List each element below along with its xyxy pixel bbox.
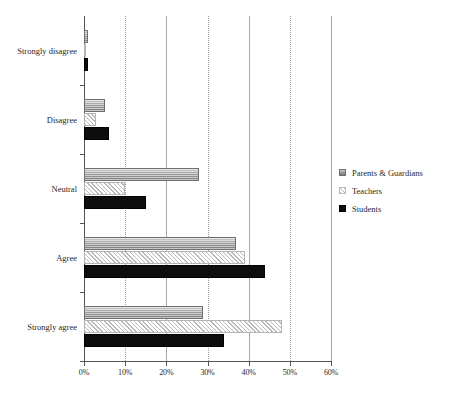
x-tick-mark-0: [84, 361, 85, 366]
x-tick-mark-20: [166, 361, 167, 366]
bar-teachers-strongly-agree: [84, 320, 282, 333]
y-axis-label-neutral: Neutral: [52, 184, 78, 194]
bar-students-agree: [84, 265, 265, 278]
x-tick-label-30: 30%: [200, 368, 214, 377]
bar-students-strongly-agree: [84, 334, 224, 347]
x-tick-label-0: 0%: [79, 368, 89, 377]
bar-students-disagree: [84, 127, 109, 140]
legend-item-students[interactable]: Students: [339, 201, 447, 216]
bar-teachers-disagree: [84, 113, 96, 126]
legend-item-teachers[interactable]: Teachers: [339, 183, 447, 198]
bar-parents-strongly-disagree: [84, 30, 88, 43]
chart-legend: Parents & Guardians Teachers Students: [339, 165, 447, 219]
x-tick-label-20: 20%: [159, 368, 173, 377]
bar-parents-neutral: [84, 168, 199, 181]
x-tick-mark-30: [208, 361, 209, 366]
y-axis-label-strongly-disagree: Strongly disagree: [17, 46, 77, 56]
bar-teachers-strongly-disagree: [84, 44, 86, 57]
legend-item-parents-guardians[interactable]: Parents & Guardians: [339, 165, 447, 180]
x-tick-mark-50: [290, 361, 291, 366]
gridline-60: [331, 16, 332, 361]
bar-parents-agree: [84, 237, 236, 250]
legend-label-parents-guardians: Parents & Guardians: [352, 168, 423, 178]
legend-label-students: Students: [352, 204, 381, 214]
bar-parents-strongly-agree: [84, 306, 203, 319]
bar-teachers-agree: [84, 251, 245, 264]
gridline-30: [208, 16, 210, 361]
y-tick-mark-0: [80, 85, 84, 86]
x-tick-label-40: 40%: [242, 368, 256, 377]
x-tick-mark-40: [249, 361, 250, 366]
legend-swatch-icon-teachers: [339, 187, 346, 194]
x-tick-mark-10: [125, 361, 126, 366]
y-tick-mark-4: [80, 361, 84, 362]
bar-teachers-neutral: [84, 182, 125, 195]
bar-students-strongly-disagree: [84, 58, 88, 71]
x-tick-label-60: 60%: [324, 368, 338, 377]
bar-students-neutral: [84, 196, 146, 209]
gridline-50: [290, 16, 292, 361]
x-tick-label-50: 50%: [283, 368, 297, 377]
legend-label-teachers: Teachers: [352, 186, 382, 196]
y-axis-label-strongly-agree: Strongly agree: [27, 322, 77, 332]
legend-swatch-icon-parents-guardians: [339, 169, 346, 176]
y-tick-mark-3: [80, 292, 84, 293]
y-axis-label-agree: Agree: [56, 253, 77, 263]
legend-swatch-icon-students: [339, 205, 346, 212]
y-tick-mark-1: [80, 154, 84, 155]
gridline-40: [249, 16, 250, 361]
y-tick-mark-2: [80, 223, 84, 224]
x-tick-label-10: 10%: [118, 368, 132, 377]
bar-parents-disagree: [84, 99, 105, 112]
bar-chart: 0%10%20%30%40%50%60% Strongly disagreeDi…: [0, 0, 451, 399]
y-axis-label-disagree: Disagree: [47, 115, 77, 125]
x-tick-mark-60: [331, 361, 332, 366]
